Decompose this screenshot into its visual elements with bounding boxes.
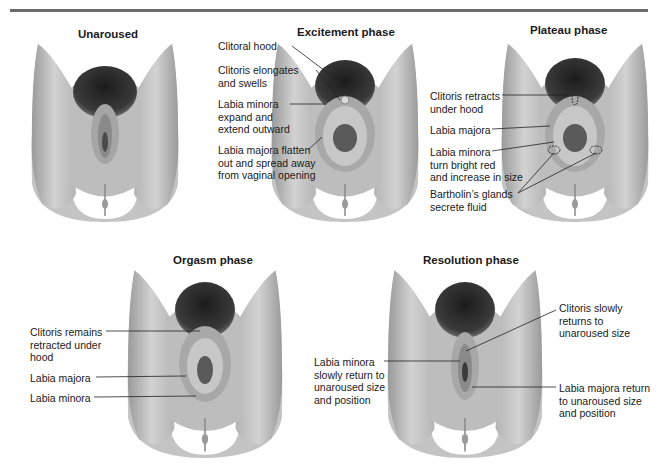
label-labia-minora-red: Labia minora turn bright red and increas… [430,146,523,184]
label-clitoris-retracts: Clitoris retracts under hood [430,90,500,115]
label-labia-majora-flatten: Labia majora flatten out and spread away… [218,144,315,182]
panel-title: Excitement phase [297,26,395,38]
panel-title: Resolution phase [423,254,519,266]
label-clitoris-elongates: Clitoris elongates and swells [218,64,299,89]
panel-title: Plateau phase [530,24,607,36]
label-labia-minora: Labia minora [30,392,91,405]
panel-plateau: Plateau phase Clitoris retracts under ho… [440,24,660,234]
header-rule [10,9,648,12]
label-labia-majora: Labia majora [430,124,491,137]
panel-excitement: Excitement phase Clitoral hood Clitoris … [210,24,430,234]
label-clitoral-hood: Clitoral hood [218,40,277,53]
label-bartholins-glands: Bartholin’s glands secrete fluid [430,188,513,213]
label-labia-minora-expand: Labia minora expand and extend outward [218,98,290,136]
panel-title: Orgasm phase [173,254,253,266]
label-labia-minora-return: Labia minora slowly return to unaroused … [314,356,385,406]
panel-unaroused: Unaroused [20,24,190,234]
label-clitoris-slowly-returns: Clitoris slowly returns to unaroused siz… [559,302,630,340]
panel-resolution: Resolution phase Clitoris slowly returns… [300,252,670,470]
panel-title: Unaroused [78,28,138,40]
label-labia-majora: Labia majora [30,372,91,385]
illustration-unaroused [20,24,190,234]
panel-orgasm: Orgasm phase Clitoris remains retracted … [0,252,300,470]
label-clitoris-remains: Clitoris remains retracted under hood [30,326,102,364]
label-labia-majora-return: Labia majora return to unaroused size an… [559,382,650,420]
